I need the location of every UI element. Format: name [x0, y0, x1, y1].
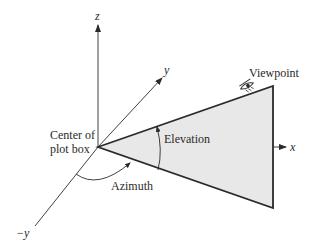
azimuth-elevation-diagram: z y −y x Elevation Azimuth Center of plo…: [0, 0, 313, 247]
azimuth-arc: [76, 163, 130, 180]
y-axis-label: y: [163, 63, 170, 77]
viewpoint-label: Viewpoint: [249, 66, 300, 80]
x-axis-label: x: [289, 140, 296, 154]
azimuth-label: Azimuth: [111, 179, 153, 193]
center-label-line1: Center of: [50, 128, 95, 142]
elevation-label: Elevation: [164, 132, 210, 146]
neg-y-axis-label: −y: [16, 226, 30, 240]
neg-y-axis: [35, 147, 98, 226]
z-axis-label: z: [94, 9, 100, 23]
center-label-line2: plot box: [50, 142, 90, 156]
